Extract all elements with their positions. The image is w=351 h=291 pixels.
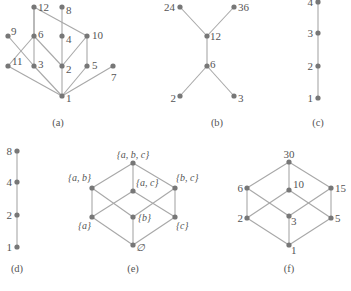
node-label: {a, b} bbox=[68, 172, 91, 183]
node-label: 15 bbox=[335, 182, 347, 194]
node-label: 9 bbox=[11, 25, 17, 37]
edge-3-1 bbox=[34, 66, 62, 96]
node-3 bbox=[231, 93, 236, 98]
edge-11-1 bbox=[8, 66, 62, 96]
node-2 bbox=[59, 63, 64, 68]
node-36 bbox=[231, 4, 236, 9]
node-15 bbox=[328, 185, 333, 190]
node-6 bbox=[31, 33, 36, 38]
node-10 bbox=[286, 187, 291, 192]
node-label: 1 bbox=[308, 92, 314, 104]
hasse-diagram-f: 30610152351(f) bbox=[238, 148, 347, 275]
node-label: {a, b, c} bbox=[117, 149, 149, 160]
node-{a, b} bbox=[89, 185, 94, 190]
node-label: {a, c} bbox=[136, 177, 158, 188]
node-∅ bbox=[130, 242, 135, 247]
node-3 bbox=[31, 63, 36, 68]
node-label: 30 bbox=[284, 148, 296, 160]
node-2 bbox=[244, 215, 249, 220]
edge-6-3 bbox=[247, 188, 289, 216]
node-24 bbox=[177, 4, 182, 9]
node-label: 4 bbox=[7, 176, 13, 188]
hasse-diagram-d: 8421(d) bbox=[7, 145, 24, 275]
edge-10-5 bbox=[289, 190, 331, 218]
node-label: 5 bbox=[92, 59, 98, 71]
edge-15-3 bbox=[289, 188, 331, 216]
node-2 bbox=[177, 93, 182, 98]
node-label: 2 bbox=[238, 212, 244, 224]
node-label: 8 bbox=[66, 4, 72, 16]
node-label: 2 bbox=[308, 60, 314, 72]
node-label: 12 bbox=[210, 30, 221, 42]
caption-c: (c) bbox=[312, 117, 324, 129]
node-9 bbox=[5, 33, 10, 38]
node-label: {b} bbox=[138, 212, 151, 223]
node-4 bbox=[59, 33, 64, 38]
edge-6-3 bbox=[207, 66, 234, 96]
node-label: {a} bbox=[78, 220, 91, 231]
node-{a, c} bbox=[130, 188, 135, 193]
node-label: 2 bbox=[66, 63, 72, 75]
node-label: 3 bbox=[38, 58, 44, 70]
node-label: 3 bbox=[308, 27, 314, 39]
node-label: 10 bbox=[293, 178, 305, 190]
node-label: {c} bbox=[176, 220, 188, 231]
node-label: 10 bbox=[92, 29, 104, 41]
node-11 bbox=[5, 63, 10, 68]
caption-e: (e) bbox=[127, 263, 139, 275]
hasse-diagram-e: {a, b, c}{a, b}{a, c}{b, c}{a}{b}{c}∅(e) bbox=[68, 149, 198, 275]
node-{c} bbox=[172, 214, 177, 219]
node-2 bbox=[315, 63, 320, 68]
node-2 bbox=[14, 212, 19, 217]
edge-{a, b, c}-{a, b} bbox=[92, 163, 133, 188]
node-label: ∅ bbox=[136, 242, 146, 253]
node-label: 1 bbox=[291, 244, 297, 256]
caption-f: (f) bbox=[284, 263, 295, 275]
node-label: 2 bbox=[171, 92, 177, 104]
node-30 bbox=[286, 159, 291, 164]
node-{a} bbox=[89, 214, 94, 219]
hasse-diagrams-figure: 128964101132571(a) 243612623(b) 4321(c) … bbox=[0, 0, 351, 291]
node-12 bbox=[31, 4, 36, 9]
node-5 bbox=[84, 63, 89, 68]
node-12 bbox=[204, 33, 209, 38]
edge-24-12 bbox=[180, 7, 207, 36]
node-{b} bbox=[130, 214, 135, 219]
node-8 bbox=[59, 4, 64, 9]
edge-10-2 bbox=[247, 190, 289, 218]
node-label: 12 bbox=[38, 1, 49, 13]
node-6 bbox=[244, 185, 249, 190]
caption-a: (a) bbox=[52, 117, 64, 129]
edge-6-2 bbox=[180, 66, 207, 96]
node-label: 7 bbox=[111, 71, 117, 83]
edge-{a}-∅ bbox=[92, 217, 133, 245]
node-label: 6 bbox=[38, 28, 44, 40]
node-label: 24 bbox=[164, 1, 176, 13]
node-7 bbox=[110, 63, 115, 68]
hasse-diagram-b: 243612623(b) bbox=[164, 1, 250, 129]
edge-2-1 bbox=[247, 218, 289, 245]
edge-30-6 bbox=[247, 162, 289, 188]
node-{b, c} bbox=[172, 185, 177, 190]
node-10 bbox=[84, 33, 89, 38]
node-1 bbox=[14, 244, 19, 249]
hasse-diagram-a: 128964101132571(a) bbox=[5, 1, 117, 129]
node-label: 6 bbox=[238, 182, 244, 194]
node-label: 1 bbox=[7, 241, 13, 253]
node-label: 36 bbox=[238, 1, 250, 13]
node-label: 2 bbox=[7, 209, 13, 221]
node-label: 8 bbox=[7, 145, 13, 157]
node-1 bbox=[59, 93, 64, 98]
node-{a, b, c} bbox=[130, 160, 135, 165]
node-label: 6 bbox=[210, 58, 216, 70]
node-8 bbox=[14, 148, 19, 153]
node-label: 11 bbox=[12, 55, 23, 67]
caption-d: (d) bbox=[11, 263, 24, 275]
caption-b: (b) bbox=[211, 117, 224, 129]
node-label: 4 bbox=[66, 33, 72, 45]
node-5 bbox=[328, 215, 333, 220]
node-label: 5 bbox=[335, 212, 341, 224]
node-4 bbox=[14, 179, 19, 184]
node-label: {b, c} bbox=[176, 172, 198, 183]
node-label: 3 bbox=[238, 92, 244, 104]
